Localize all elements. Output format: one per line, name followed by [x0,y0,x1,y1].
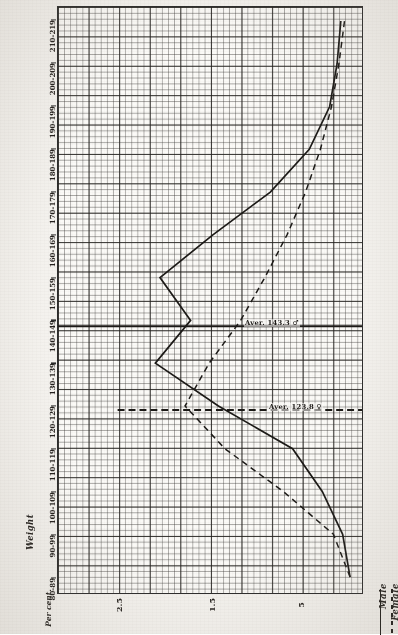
y-axis-tick-label: 180-189 [48,149,57,181]
legend-swatch-male [380,589,382,635]
y-axis-tick-label: 110-119 [48,449,57,481]
y-axis-tick-mark [51,449,56,450]
y-axis-tick-mark [51,492,56,493]
y-axis-title: Weight [25,514,35,550]
y-axis-tick-label: 80-89 [48,578,57,600]
y-axis-tick-label: 150-159 [48,278,57,310]
annotation-male-average: Aver. 143.3 ♂ [244,319,300,327]
x-axis-tick-label: 1.5 [205,600,219,610]
y-axis-tick-mark [51,191,56,192]
y-axis-tick-mark [51,577,56,578]
y-axis-tick-mark [51,105,56,106]
plot-area: Aver. 143.3 ♂ Aver. 123.8 ♀ [57,6,363,594]
x-axis-tick-label: 2.5 [112,600,126,610]
y-axis-tick-mark [51,406,56,407]
y-axis-tick-label: 140-149 [48,320,57,352]
y-axis-tick-mark [51,19,56,20]
annotation-female-average: Aver. 123.8 ♀ [268,403,323,411]
y-axis-tick-label: 170-179 [48,192,57,224]
y-axis-tick-mark [51,148,56,149]
y-axis-tick-mark [51,363,56,364]
y-axis-tick-mark [51,234,56,235]
y-axis-tick-label: 190-199 [48,106,57,138]
y-axis-tick-label: 160-169 [48,235,57,267]
series-line-female [185,21,350,577]
y-axis-tick-label: 100-109 [48,492,57,524]
y-axis-tick-label: 120-129 [48,406,57,438]
x-axis-tick-label: 5 [298,600,304,610]
legend: Male Female [366,497,398,605]
y-axis-tick-mark [51,320,56,321]
legend-swatch-female [391,589,393,635]
y-axis-tick-label: 130-139 [48,363,57,395]
y-axis-tick-mark [51,534,56,535]
y-axis-tick-mark [51,277,56,278]
y-axis-tick-label: 90-99 [48,535,57,557]
y-axis-tick-mark [51,62,56,63]
y-axis-tick-label: 200-209 [48,63,57,95]
data-curves [58,7,362,593]
y-axis-tick-label: 210-219 [48,20,57,52]
